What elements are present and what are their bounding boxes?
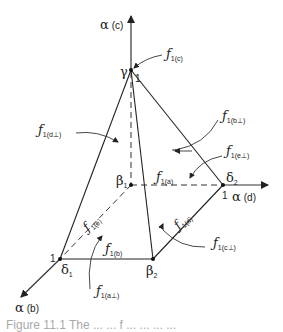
axis-d-label: α(d) <box>232 189 256 204</box>
pointer-f1a-perp <box>89 236 102 289</box>
label-f1d: ƒ1(d) <box>168 209 194 235</box>
axis-c-label: α(c) <box>100 17 123 32</box>
pointer-f1e-perp <box>190 156 222 178</box>
label-f1a: ƒ1(a) <box>153 169 173 186</box>
hidden-edges <box>60 72 223 259</box>
label-f1a-perp: ƒ1(a⊥) <box>93 283 119 300</box>
axis-b <box>21 259 60 297</box>
axis-b-label: α(b) <box>15 300 39 315</box>
vertex-delta2-unit: 1 <box>222 190 228 201</box>
figure-caption: Figure 11.1 The ... ... f ... ... ... ..… <box>6 318 176 332</box>
label-f1c: ƒ1(c) <box>163 46 183 63</box>
vertex-delta2-label: δ2 <box>226 170 238 186</box>
vertex-delta1-unit: 1 <box>50 253 56 264</box>
label-f1b: ƒ1(b) <box>102 241 122 258</box>
label-f1e: ƒ1(e) <box>77 211 103 237</box>
vertex-delta1-label: δ1 <box>61 262 73 278</box>
label-f1c-perp: ƒ1(c⊥) <box>210 235 236 252</box>
vertex-beta2-label: β2 <box>146 263 158 279</box>
edge-gamma-delta2 <box>131 70 223 185</box>
pointer-f1d-perp <box>76 132 118 142</box>
label-f1d-perp: ƒ1(d⊥) <box>35 122 61 139</box>
edge-gamma-delta1 <box>60 70 131 259</box>
vertex-beta1-label: β1 <box>116 173 128 189</box>
pointer-f1b-perp <box>172 120 218 150</box>
pointer-f1c <box>134 55 162 68</box>
label-f1b-perp: ƒ1(b⊥) <box>219 108 245 125</box>
pointer-curves <box>76 55 222 289</box>
edge-gamma-beta2 <box>131 70 153 259</box>
vertex-gamma-label: γ <box>120 64 128 79</box>
vertex-gamma-unit: 1 <box>135 73 141 84</box>
solid-edges <box>60 70 223 259</box>
label-f1e-perp: ƒ1(e⊥) <box>223 143 249 160</box>
